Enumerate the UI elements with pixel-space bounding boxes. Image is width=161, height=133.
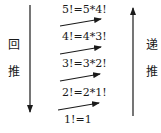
step-equation: 1!=1	[64, 114, 92, 126]
step-arrow-icon	[60, 19, 101, 26]
left-label-char-2: 推	[8, 66, 20, 78]
step-arrow-icon	[60, 47, 101, 54]
left-label-char-1: 回	[8, 39, 20, 51]
step-equation: 3!=3*2!	[62, 58, 107, 70]
step-equation: 2!=2*1!	[62, 87, 107, 99]
recursion-diagram: 回 推 递 推 5!=5*4! 4!=4*3! 3!=3*2! 2!=2*1! …	[0, 0, 161, 133]
right-label-char-2: 推	[146, 66, 158, 78]
step-arrow-icon	[58, 103, 99, 110]
right-label-char-1: 递	[146, 39, 158, 51]
step-arrow-icon	[60, 74, 100, 81]
step-equation: 4!=4*3!	[62, 31, 107, 43]
step-equation: 5!=5*4!	[62, 4, 107, 16]
